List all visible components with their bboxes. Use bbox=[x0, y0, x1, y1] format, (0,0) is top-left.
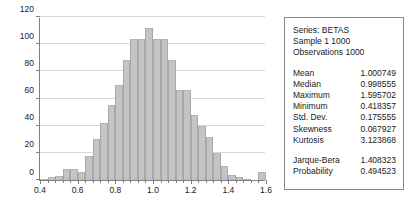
statistics-panel: Series: BETASSample 1 1000Observations 1… bbox=[284, 17, 404, 190]
statistic-row: Skewness0.067927 bbox=[293, 124, 396, 135]
histogram-bar bbox=[55, 176, 63, 180]
x-axis-label: 1.0 bbox=[147, 186, 159, 195]
histogram-chart: 020406080100120 0.40.60.81.01.21.41.6 bbox=[0, 0, 275, 209]
spacer bbox=[293, 146, 396, 155]
x-axis-minor-tick bbox=[55, 180, 56, 183]
y-axis-label: 0 bbox=[29, 167, 34, 176]
y-axis-label: 80 bbox=[25, 59, 34, 68]
x-axis-minor-tick bbox=[221, 180, 222, 183]
histogram-bars bbox=[40, 18, 265, 180]
x-axis-minor-tick bbox=[168, 180, 169, 183]
x-axis-minor-tick bbox=[138, 180, 139, 183]
histogram-bar bbox=[108, 105, 116, 180]
statistic-label: Median bbox=[293, 79, 321, 90]
statistic-value: 1.408323 bbox=[361, 155, 396, 166]
statistic-row: Minimum0.418357 bbox=[293, 101, 396, 112]
y-axis-tick bbox=[36, 16, 40, 17]
statistic-label: Std. Dev. bbox=[293, 112, 327, 123]
x-axis-minor-tick bbox=[213, 180, 214, 183]
statistic-value: 1.000749 bbox=[361, 68, 396, 79]
x-axis-minor-tick bbox=[183, 180, 184, 183]
x-axis-tick bbox=[153, 180, 154, 184]
x-axis-minor-tick bbox=[206, 180, 207, 183]
x-axis-tick bbox=[191, 180, 192, 184]
x-axis-minor-tick bbox=[100, 180, 101, 183]
statistic-row: Std. Dev.0.175555 bbox=[293, 112, 396, 123]
histogram-bar bbox=[213, 153, 221, 180]
x-axis-minor-tick bbox=[85, 180, 86, 183]
statistic-row: Mean1.000749 bbox=[293, 68, 396, 79]
x-axis-minor-tick bbox=[176, 180, 177, 183]
statistic-value: 0.418357 bbox=[361, 101, 396, 112]
histogram-bar bbox=[138, 39, 146, 180]
x-axis-minor-tick bbox=[93, 180, 94, 183]
statistics-header: Series: BETASSample 1 1000Observations 1… bbox=[293, 25, 396, 59]
statistic-value: 0.494523 bbox=[361, 166, 396, 177]
histogram-bar bbox=[48, 177, 56, 180]
histogram-bar bbox=[236, 177, 244, 180]
histogram-bar bbox=[161, 39, 169, 180]
histogram-bar bbox=[93, 139, 101, 180]
histogram-bar bbox=[206, 137, 214, 180]
histogram-bar bbox=[78, 172, 86, 180]
histogram-statistics-view: 020406080100120 0.40.60.81.01.21.41.6 Se… bbox=[0, 0, 419, 209]
statistic-label: Probability bbox=[293, 166, 333, 177]
statistic-label: Skewness bbox=[293, 124, 332, 135]
histogram-bar bbox=[145, 28, 153, 180]
x-axis-tick bbox=[78, 180, 79, 184]
statistic-value: 0.067927 bbox=[361, 124, 396, 135]
x-axis-label: 1.2 bbox=[185, 186, 197, 195]
statistic-value: 3.123868 bbox=[361, 135, 396, 146]
histogram-bar bbox=[130, 39, 138, 180]
histogram-bar bbox=[123, 60, 131, 180]
y-axis-label: 40 bbox=[25, 113, 34, 122]
statistic-value: 0.175555 bbox=[361, 112, 396, 123]
x-axis-minor-tick bbox=[48, 180, 49, 183]
histogram-bar bbox=[258, 172, 266, 180]
statistics-header-line: Series: BETAS bbox=[293, 25, 396, 36]
histogram-bar bbox=[176, 90, 184, 180]
histogram-bar bbox=[100, 123, 108, 180]
x-axis-label: 0.6 bbox=[72, 186, 84, 195]
x-axis-minor-tick bbox=[236, 180, 237, 183]
x-axis-minor-tick bbox=[145, 180, 146, 183]
x-axis-minor-tick bbox=[108, 180, 109, 183]
x-axis-label: 1.6 bbox=[260, 186, 272, 195]
x-axis-minor-tick bbox=[251, 180, 252, 183]
statistics-rows: Mean1.000749Median0.998555Maximum1.59570… bbox=[293, 68, 396, 146]
statistic-label: Minimum bbox=[293, 101, 327, 112]
statistic-label: Kurtosis bbox=[293, 135, 324, 146]
x-axis-minor-tick bbox=[161, 180, 162, 183]
x-axis-label: 0.8 bbox=[109, 186, 121, 195]
statistics-header-line: Sample 1 1000 bbox=[293, 36, 396, 47]
x-axis-tick bbox=[115, 180, 116, 184]
x-axis-minor-tick bbox=[198, 180, 199, 183]
statistic-row: Kurtosis3.123868 bbox=[293, 135, 396, 146]
histogram-bar bbox=[153, 39, 161, 180]
statistics-header-line: Observations 1000 bbox=[293, 47, 396, 58]
y-axis-label: 20 bbox=[25, 140, 34, 149]
plot-area: 020406080100120 0.40.60.81.01.21.41.6 bbox=[39, 18, 265, 181]
x-axis-label: 1.4 bbox=[222, 186, 234, 195]
statistic-label: Mean bbox=[293, 68, 314, 79]
histogram-bar bbox=[221, 166, 229, 180]
histogram-bar bbox=[63, 169, 71, 180]
statistic-row: Maximum1.595702 bbox=[293, 90, 396, 101]
gridline bbox=[40, 16, 265, 17]
x-axis-minor-tick bbox=[243, 180, 244, 183]
normality-test-row: Probability0.494523 bbox=[293, 166, 396, 177]
histogram-bar bbox=[40, 179, 48, 180]
statistic-row: Median0.998555 bbox=[293, 79, 396, 90]
y-axis-label: 60 bbox=[25, 86, 34, 95]
x-axis-minor-tick bbox=[258, 180, 259, 183]
histogram-bar bbox=[85, 156, 93, 180]
histogram-bar bbox=[168, 60, 176, 180]
statistic-label: Maximum bbox=[293, 90, 330, 101]
histogram-bar bbox=[183, 90, 191, 180]
normality-test-row: Jarque-Bera1.408323 bbox=[293, 155, 396, 166]
x-axis-tick bbox=[266, 180, 267, 184]
x-axis-label: 0.4 bbox=[34, 186, 46, 195]
x-axis-minor-tick bbox=[63, 180, 64, 183]
statistic-value: 1.595702 bbox=[361, 90, 396, 101]
y-axis-label: 100 bbox=[20, 31, 34, 40]
